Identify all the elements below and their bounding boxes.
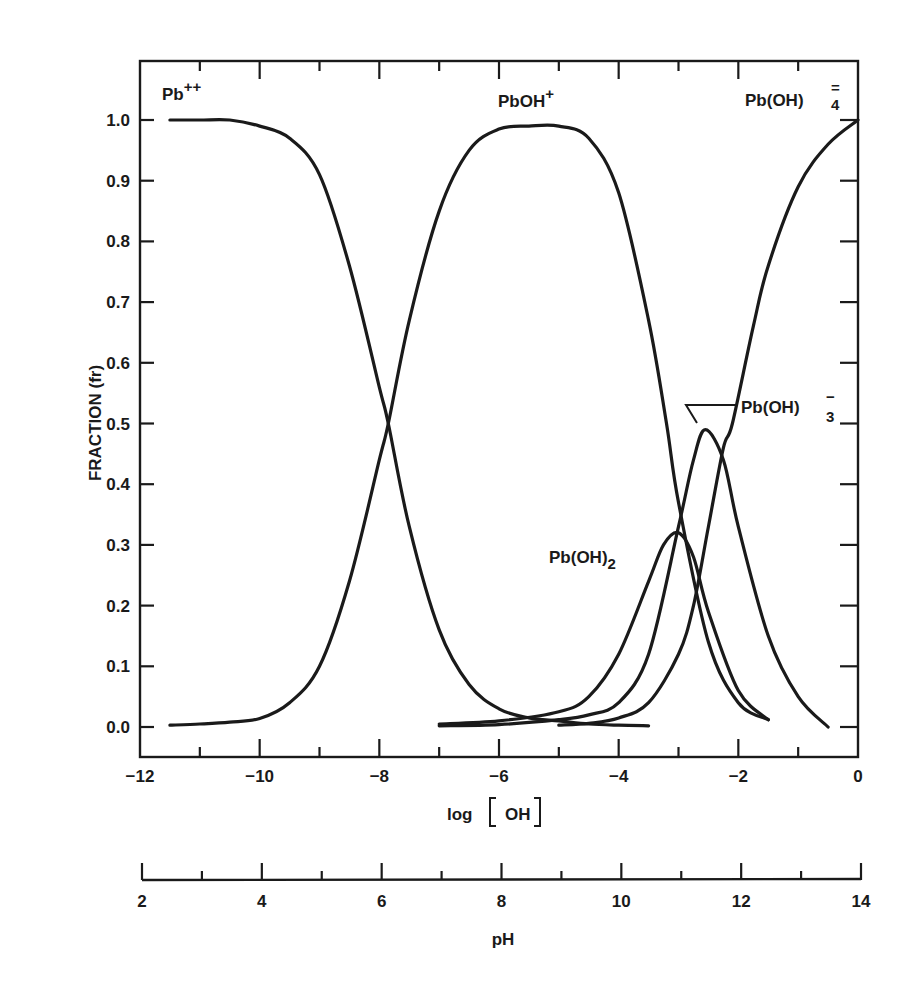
chart-canvas: −12−10−8−6−4−20 0.00.10.20.30.40.50.60.7… xyxy=(0,0,912,993)
ph-axis-title: pH xyxy=(492,930,515,949)
ph-tick-label: 2 xyxy=(137,892,146,911)
label-pboh3: Pb(OH) xyxy=(741,398,800,417)
x-tick-label: −8 xyxy=(370,767,389,786)
y-tick-label: 0.3 xyxy=(106,536,130,555)
label-pboh3-subscript: 3 xyxy=(826,408,834,425)
y-tick-label: 0.2 xyxy=(106,597,130,616)
label-pboh2: Pb(OH)2 xyxy=(549,548,616,572)
right-bracket-icon xyxy=(534,798,540,826)
x-axis-title-oh: OH xyxy=(505,805,531,824)
x-tick-label: −12 xyxy=(126,767,155,786)
y-tick-label: 0.4 xyxy=(106,475,130,494)
label-pboh4-charge: = xyxy=(831,79,840,96)
y-tick-label: 0.8 xyxy=(106,232,130,251)
y-tick-label: 0.9 xyxy=(106,172,130,191)
label-pb2plus: Pb++ xyxy=(162,78,201,104)
curve-pb- xyxy=(170,120,649,726)
label-pboh3-charge: − xyxy=(826,388,835,405)
ph-tick-label: 6 xyxy=(377,892,386,911)
y-tick-label: 1.0 xyxy=(106,111,130,130)
curve-pb-oh-3- xyxy=(439,430,828,727)
y-axis-title: FRACTION (fr) xyxy=(86,365,105,481)
x-tick-label: −10 xyxy=(245,767,274,786)
label-pboh4: Pb(OH) xyxy=(745,91,804,110)
x-tick-label: −6 xyxy=(489,767,508,786)
y-tick-label: 0.6 xyxy=(106,354,130,373)
ph-axis: 2468101214 xyxy=(137,863,871,911)
species-curves xyxy=(170,120,858,727)
curve-pb-oh-4- xyxy=(559,120,858,725)
pboh3-leader-line xyxy=(686,405,738,423)
ph-tick-label: 12 xyxy=(732,892,751,911)
label-pboh-plus: PbOH+ xyxy=(498,85,554,111)
y-tick-label: 0.7 xyxy=(106,293,130,312)
y-tick-label: 0.5 xyxy=(106,415,130,434)
y-axis-ticks: 0.00.10.20.30.40.50.60.70.80.91.0 xyxy=(106,111,858,737)
left-bracket-icon xyxy=(490,798,496,826)
x-tick-label: −2 xyxy=(729,767,748,786)
ph-tick-label: 4 xyxy=(257,892,267,911)
label-pboh4-subscript: 4 xyxy=(831,96,840,113)
x-tick-label: −4 xyxy=(609,767,629,786)
x-tick-label: 0 xyxy=(853,767,862,786)
ph-tick-label: 10 xyxy=(612,892,631,911)
y-tick-label: 0.1 xyxy=(106,657,130,676)
x-axis-title: log OH xyxy=(447,798,540,826)
curve-pboh- xyxy=(170,125,768,725)
x-axis-ticks: −12−10−8−6−4−20 xyxy=(126,61,863,786)
x-axis-title-log: log xyxy=(447,805,473,824)
ph-tick-label: 8 xyxy=(497,892,506,911)
y-tick-label: 0.0 xyxy=(106,718,130,737)
ph-tick-label: 14 xyxy=(852,892,871,911)
